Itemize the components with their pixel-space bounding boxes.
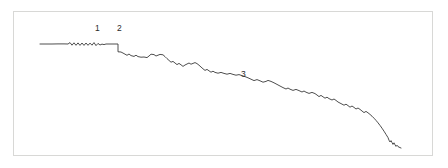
trace-line [40, 43, 401, 148]
annotation-label-3: 3 [241, 70, 246, 79]
line-chart-svg [0, 0, 448, 168]
annotation-label-1: 1 [95, 24, 100, 33]
annotation-label-2: 2 [117, 24, 122, 33]
figure-root: 1 2 3 [0, 0, 448, 168]
